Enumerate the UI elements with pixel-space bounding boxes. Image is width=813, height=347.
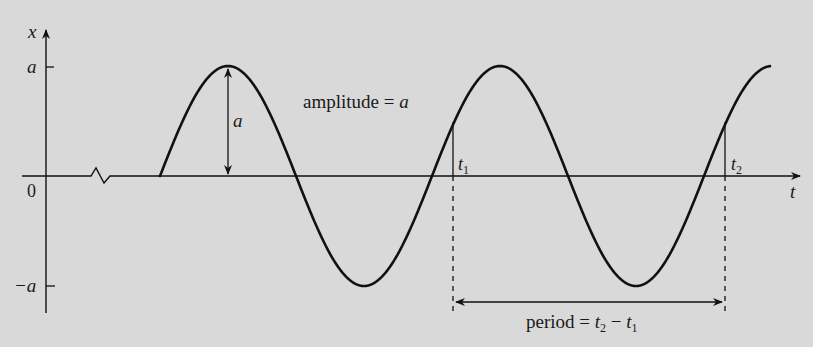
oscillation-diagram: x t 0 a −a a amplitude = a t1 t2 period … — [0, 0, 813, 347]
amplitude-arrow-label: a — [233, 110, 243, 131]
origin-label: 0 — [27, 181, 36, 201]
amplitude-caption: amplitude = a — [303, 91, 409, 112]
background — [0, 0, 813, 347]
tick-label-neg-a: −a — [14, 275, 36, 296]
vertical-axis-label: x — [27, 21, 37, 42]
horizontal-axis-label: t — [790, 181, 796, 202]
period-caption: period = t2 − t1 — [526, 311, 638, 335]
tick-label-a: a — [27, 56, 37, 77]
